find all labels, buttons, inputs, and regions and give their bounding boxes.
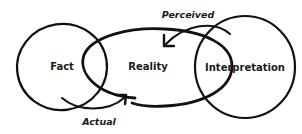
perceived-label: Perceived	[162, 9, 215, 20]
actual-arrow	[62, 98, 124, 109]
reality-label: Reality	[128, 61, 167, 72]
fact-label: Fact	[50, 61, 74, 72]
venn-diagram: Fact Reality Interpretation Actual Perce…	[0, 0, 302, 134]
actual-label: Actual	[82, 116, 116, 127]
interpretation-label: Interpretation	[205, 62, 285, 73]
